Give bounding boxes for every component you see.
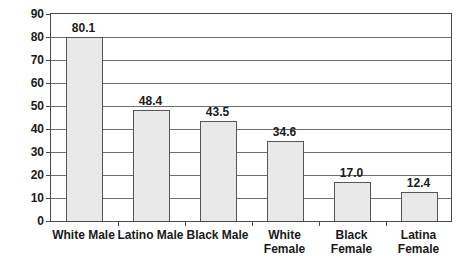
bar-value-label: 12.4 — [389, 177, 449, 190]
y-axis-tick-label: 90 — [18, 8, 44, 20]
gridline — [51, 106, 451, 107]
bar-value-label: 34.6 — [255, 126, 315, 139]
y-axis-tick-label: 30 — [18, 146, 44, 158]
bar-value-label: 48.4 — [121, 95, 181, 108]
y-axis-tick-label: 80 — [18, 31, 44, 43]
y-axis-tick — [46, 83, 51, 84]
x-axis-category-label: Latina Female — [379, 228, 459, 256]
x-axis-tick — [185, 221, 186, 226]
y-axis-tick-label: 60 — [18, 77, 44, 89]
x-axis-tick — [118, 221, 119, 226]
y-axis-tick — [46, 14, 51, 15]
bar-chart: Percentage 0102030405060708090 80.1White… — [0, 0, 462, 269]
gridline — [51, 198, 451, 199]
y-axis-tick-label: 20 — [18, 169, 44, 181]
y-axis-tick — [46, 198, 51, 199]
y-axis-tick-label: 0 — [18, 215, 44, 227]
y-axis-tick-label: 10 — [18, 192, 44, 204]
gridline — [51, 175, 451, 176]
bar[interactable] — [133, 110, 170, 221]
bar-value-label: 80.1 — [54, 22, 114, 35]
y-axis-tick — [46, 175, 51, 176]
y-axis-tick — [46, 106, 51, 107]
bar[interactable] — [267, 141, 304, 221]
gridline — [51, 83, 451, 84]
bar[interactable] — [66, 37, 103, 221]
gridline — [51, 37, 451, 38]
y-axis-tick — [46, 152, 51, 153]
bar[interactable] — [334, 182, 371, 221]
bar[interactable] — [401, 192, 438, 221]
gridline — [51, 60, 451, 61]
gridline — [51, 152, 451, 153]
y-axis-tick — [46, 37, 51, 38]
y-axis-tick — [46, 60, 51, 61]
bar-value-label: 43.5 — [188, 106, 248, 119]
y-axis-tick — [46, 129, 51, 130]
x-axis-tick — [386, 221, 387, 226]
y-axis-tick-label: 50 — [18, 100, 44, 112]
y-axis-tick — [46, 221, 51, 222]
x-axis-tick — [319, 221, 320, 226]
y-axis-tick-label: 70 — [18, 54, 44, 66]
plot-area — [50, 13, 452, 222]
gridline — [51, 129, 451, 130]
y-axis-tick-labels: 0102030405060708090 — [16, 0, 44, 269]
y-axis-tick-label: 40 — [18, 123, 44, 135]
bar[interactable] — [200, 121, 237, 221]
x-axis-tick — [252, 221, 253, 226]
bar-value-label: 17.0 — [322, 167, 382, 180]
